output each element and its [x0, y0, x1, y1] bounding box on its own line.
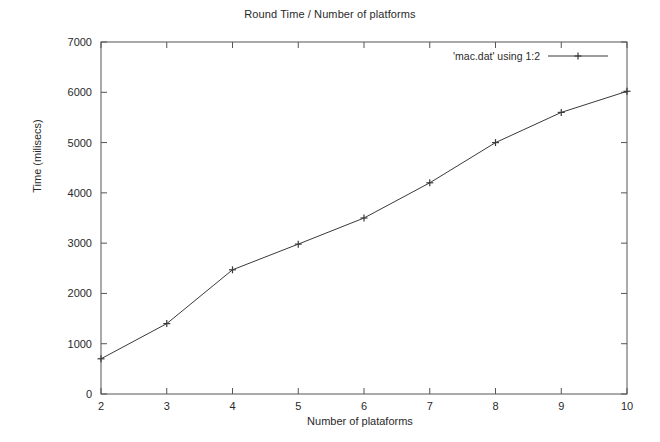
x-axis-label: Number of plataforms — [100, 415, 620, 427]
plot-area: 01000200030004000500060007000 2345678910… — [0, 0, 660, 442]
y-tick-label: 5000 — [68, 137, 92, 149]
y-tick-label: 6000 — [68, 86, 92, 98]
y-tick-label: 2000 — [68, 287, 92, 299]
x-tick-label: 10 — [621, 400, 633, 412]
y-axis-ticks: 01000200030004000500060007000 — [68, 36, 627, 400]
legend: 'mac.dat' using 1:2 — [453, 50, 608, 62]
x-tick-label: 4 — [229, 400, 235, 412]
y-tick-label: 1000 — [68, 338, 92, 350]
x-axis-ticks: 2345678910 — [98, 42, 633, 412]
legend-entry-label: 'mac.dat' using 1:2 — [453, 50, 540, 62]
x-tick-label: 6 — [361, 400, 367, 412]
x-tick-label: 5 — [295, 400, 301, 412]
y-tick-label: 7000 — [68, 36, 92, 48]
y-tick-label: 0 — [86, 388, 92, 400]
chart-figure: Round Time / Number of platforms Time (m… — [0, 0, 660, 442]
x-tick-label: 7 — [427, 400, 433, 412]
data-series-line — [101, 91, 627, 359]
y-tick-label: 4000 — [68, 187, 92, 199]
x-tick-label: 8 — [492, 400, 498, 412]
x-tick-label: 9 — [558, 400, 564, 412]
data-point-markers — [98, 88, 631, 363]
y-tick-label: 3000 — [68, 237, 92, 249]
x-tick-label: 3 — [164, 400, 170, 412]
chart-title: Round Time / Number of platforms — [0, 8, 660, 20]
x-tick-label: 2 — [98, 400, 104, 412]
y-axis-label: Time (milisecs) — [31, 91, 43, 221]
legend-sample-marker — [575, 53, 582, 60]
